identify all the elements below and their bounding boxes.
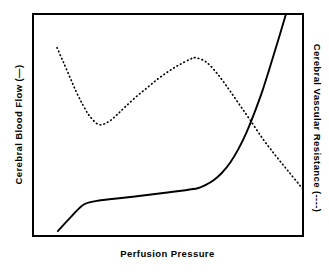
plot-frame: [33, 14, 303, 236]
chart-figure: Cerebral Blood Flow (—) Cerebral Vascula…: [0, 0, 329, 273]
plot-area: [0, 0, 329, 273]
